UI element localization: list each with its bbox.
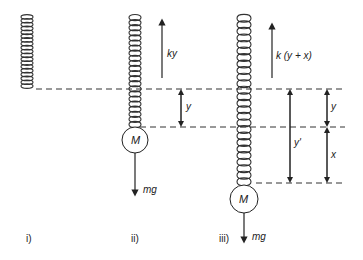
label-y-ii: y	[186, 101, 191, 112]
label-x: x	[331, 149, 336, 160]
spring-mass-diagram: M M ky mg y k (y + x) mg y x y' i) ii) i…	[0, 0, 363, 260]
panel-label-ii: ii)	[131, 233, 139, 244]
force-ky: ky	[167, 48, 177, 59]
mass-label-iii: M	[239, 193, 248, 205]
panel-label-i: i)	[26, 233, 32, 244]
panel-label-iii: iii)	[219, 233, 229, 244]
coil-spring	[21, 15, 33, 89]
force-mg-ii: mg	[143, 184, 157, 195]
label-y-iii: y	[331, 101, 336, 112]
force-mg-iii: mg	[252, 231, 266, 242]
mass-label-ii: M	[131, 134, 140, 146]
diagram-graphics	[0, 0, 363, 260]
force-k-y-x: k (y + x)	[276, 50, 312, 61]
coil-spring	[129, 14, 141, 127]
label-y-prime: y'	[294, 137, 301, 148]
coil-spring	[237, 14, 251, 185]
